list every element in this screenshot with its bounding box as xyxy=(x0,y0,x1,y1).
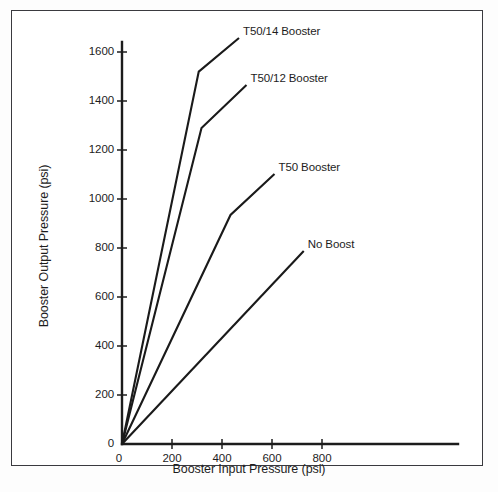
y-tick-label: 1600 xyxy=(70,46,114,58)
x-tick-label: 600 xyxy=(263,453,282,465)
series-label-t50-12-booster: T50/12 Booster xyxy=(251,73,328,85)
x-axis-label: Booster Input Pressure (psi) xyxy=(0,462,498,476)
series-line-no-boost xyxy=(122,251,304,444)
series-label-no-boost: No Boost xyxy=(308,239,355,251)
y-tick-label: 200 xyxy=(70,389,114,401)
series-line-t50-booster xyxy=(122,174,275,444)
y-tick-label: 400 xyxy=(70,340,114,352)
x-tick-label: 400 xyxy=(213,453,232,465)
x-tick-label: 0 xyxy=(116,453,122,465)
series-label-t50-booster: T50 Booster xyxy=(279,162,341,174)
y-tick-label: 800 xyxy=(70,242,114,254)
series-label-t50-14-booster: T50/14 Booster xyxy=(243,26,320,38)
y-tick-label: 1200 xyxy=(70,144,114,156)
y-tick-label: 600 xyxy=(70,291,114,303)
chart-figure: Booster Output Pressure (psi) Booster In… xyxy=(0,0,498,492)
x-tick-label: 200 xyxy=(163,453,182,465)
y-tick-label: 1400 xyxy=(70,95,114,107)
y-tick-label: 0 xyxy=(70,438,114,450)
x-tick-label: 800 xyxy=(313,453,332,465)
y-tick-label: 1000 xyxy=(70,193,114,205)
